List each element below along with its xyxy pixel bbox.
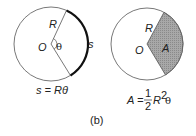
area-formula-lhs: A =: [126, 94, 144, 106]
arc-s: [67, 10, 89, 75]
angle-label: θ: [56, 41, 62, 52]
area-formula-R: R: [153, 94, 161, 106]
arc-length-diagram: R O θ s s = Rθ: [14, 7, 94, 96]
fraction-denominator: 2: [145, 100, 151, 112]
arc-sector-diagram: R O θ s s = Rθ R O A A = 1 2 R 2 θ (b): [0, 0, 196, 136]
fraction-numerator: 1: [145, 87, 151, 99]
radius-label: R: [145, 22, 153, 34]
sector-area-diagram: R O A A = 1 2 R 2 θ: [111, 8, 183, 112]
arc-formula: s = Rθ: [36, 84, 68, 96]
area-formula-theta: θ: [165, 95, 171, 106]
center-label: O: [135, 44, 144, 56]
radius-label: R: [49, 18, 57, 30]
area-label: A: [161, 42, 169, 54]
arc-label: s: [88, 38, 94, 50]
center-label: O: [38, 41, 47, 53]
caption: (b): [90, 114, 103, 126]
